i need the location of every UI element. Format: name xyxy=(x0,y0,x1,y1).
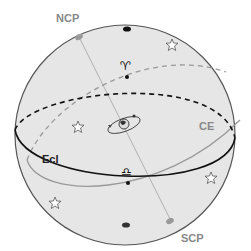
vernal-equinox-point xyxy=(125,75,129,79)
south-ecliptic-pole-marker xyxy=(122,222,130,227)
aries-symbol: ♈ xyxy=(120,60,131,72)
libra-symbol: ♎ xyxy=(121,166,132,178)
ce-label: CE xyxy=(199,121,214,132)
scp-label: SCP xyxy=(181,233,204,244)
ecl-label: Ecl xyxy=(42,154,59,165)
ncp-label: NCP xyxy=(56,13,79,24)
north-ecliptic-pole-marker xyxy=(123,26,131,31)
celestial-sphere xyxy=(15,25,235,245)
autumnal-equinox-point xyxy=(126,181,130,185)
